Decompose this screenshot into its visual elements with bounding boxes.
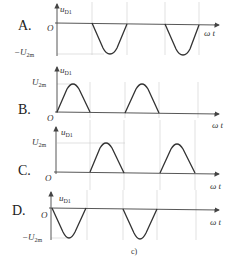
x-axis-label: ω t bbox=[210, 217, 222, 227]
option-d-panel: D. uD1 O −U2m ω t bbox=[12, 190, 222, 243]
option-a-label: A. bbox=[18, 18, 32, 33]
waveform-hump bbox=[160, 144, 195, 173]
waveform-trough bbox=[92, 23, 127, 54]
option-a-panel: A. uD1 O −U2m ω t bbox=[14, 2, 219, 58]
diagram-canvas: A. uD1 O −U2m ω t B. uD1 O U2m ω t C. bbox=[0, 0, 227, 261]
x-axis-label: ω t bbox=[212, 120, 224, 130]
waveform-hump bbox=[57, 84, 90, 112]
waveform-hump bbox=[125, 84, 159, 113]
option-c-panel: C. uD1 O U2m ω t bbox=[18, 120, 222, 191]
option-c-label: C. bbox=[18, 163, 31, 178]
waveform-trough bbox=[52, 208, 86, 238]
x-axis-label: ω t bbox=[204, 28, 216, 38]
svg-text:uD1: uD1 bbox=[61, 127, 73, 138]
x-axis bbox=[55, 23, 219, 25]
waveform-hump bbox=[90, 143, 124, 173]
svg-text:−U2m: −U2m bbox=[22, 232, 43, 243]
waveform-trough bbox=[123, 209, 157, 239]
option-b-panel: B. uD1 O U2m ω t bbox=[18, 65, 224, 130]
x-axis bbox=[55, 112, 219, 114]
option-d-label: D. bbox=[12, 203, 26, 218]
option-b-label: B. bbox=[18, 102, 31, 117]
x-axis bbox=[49, 208, 219, 210]
origin-label: O bbox=[45, 173, 52, 183]
svg-text:uD1: uD1 bbox=[60, 4, 72, 15]
x-axis-label: ω t bbox=[210, 181, 222, 191]
origin-label: O bbox=[47, 113, 54, 123]
origin-label: O bbox=[47, 23, 54, 33]
figure-caption: c) bbox=[131, 247, 138, 256]
svg-text:−U2m: −U2m bbox=[14, 47, 35, 58]
svg-text:U2m: U2m bbox=[32, 77, 47, 88]
svg-text:U2m: U2m bbox=[32, 137, 47, 148]
svg-text:uD1: uD1 bbox=[60, 65, 72, 76]
waveform-trough bbox=[165, 24, 199, 55]
origin-label: O bbox=[41, 210, 48, 220]
svg-text:uD1: uD1 bbox=[59, 193, 71, 204]
